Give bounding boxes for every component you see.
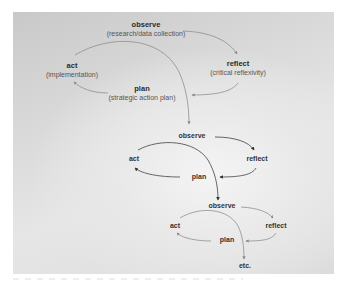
cycle-1-reflect-title: reflect (210, 60, 266, 69)
arrow-act-to-observe-spiral-1 (75, 41, 189, 124)
arrow-act-to-observe-spiral-2 (138, 143, 218, 200)
cycle-1-plan-title: plan (109, 85, 176, 94)
arrow-reflect-to-plan-1 (192, 83, 238, 95)
arrow-plan-to-act-1 (74, 82, 108, 93)
caption-strip (13, 278, 243, 280)
cycle-3-observe-title: observe (209, 202, 236, 210)
cycle-1-act: act (implementation) (46, 62, 98, 79)
arrow-plan-to-act-2 (135, 168, 180, 177)
cycle-2-plan-title: plan (192, 173, 206, 181)
arrow-observe-to-reflect-1 (183, 31, 237, 54)
cycle-1-plan: plan (strategic action plan) (109, 85, 176, 102)
cycle-1-observe-title: observe (107, 21, 186, 30)
cycle-3-arrows (177, 207, 276, 259)
cycle-1-act-title: act (46, 62, 98, 71)
cycle-3-observe: observe (209, 202, 236, 210)
cycle-1-observe-subtitle: (research/data collection) (107, 30, 186, 38)
cycle-1-reflect: reflect (critical reflexivity) (210, 60, 266, 77)
arrow-reflect-to-plan-3 (246, 233, 276, 241)
cycle-3-reflect-title: reflect (265, 222, 286, 230)
cycle-2-act: act (129, 155, 139, 163)
cycle-2-observe: observe (179, 132, 206, 140)
cycle-2-reflect: reflect (246, 155, 267, 163)
cycle-3-act-title: act (170, 222, 180, 230)
cycle-arrows (0, 0, 347, 291)
cycle-2-observe-title: observe (179, 132, 206, 140)
cycle-1-observe: observe (research/data collection) (107, 21, 186, 38)
cycle-2-act-title: act (129, 155, 139, 163)
arrow-plan-to-act-3 (177, 233, 211, 241)
cycle-3-reflect: reflect (265, 222, 286, 230)
cycle-1-plan-subtitle: (strategic action plan) (109, 94, 176, 102)
cycle-3-plan: plan (220, 236, 234, 244)
cycle-3-act: act (170, 222, 180, 230)
cycle-2-plan: plan (192, 173, 206, 181)
arrow-observe-to-reflect-3 (241, 207, 273, 218)
cycle-2-reflect-title: reflect (246, 155, 267, 163)
cycle-1-arrows (74, 31, 238, 124)
continuation-label: etc. (239, 262, 251, 270)
cycle-1-reflect-subtitle: (critical reflexivity) (210, 69, 266, 77)
arrow-act-to-etc-spiral-3 (180, 210, 244, 259)
arrow-observe-to-reflect-2 (215, 137, 254, 150)
cycle-2-arrows (135, 137, 256, 200)
cycle-1-act-subtitle: (implementation) (46, 71, 98, 79)
arrow-reflect-to-plan-2 (220, 168, 256, 177)
cycle-3-plan-title: plan (220, 236, 234, 244)
